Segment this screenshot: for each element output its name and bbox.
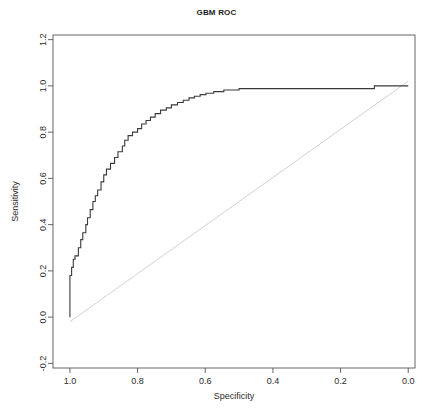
x-axis-title: Specificity xyxy=(214,391,255,401)
x-axis-tick-label: 0.0 xyxy=(402,376,415,386)
x-axis-tick-label: 0.2 xyxy=(334,376,347,386)
y-axis-tick-label: 1.2 xyxy=(38,33,48,46)
x-axis-tick-label: 0.8 xyxy=(131,376,144,386)
y-axis-tick-label: 0.6 xyxy=(38,172,48,185)
y-axis-tick-label: 0.8 xyxy=(38,126,48,139)
y-axis-tick-label: 0.0 xyxy=(38,311,48,324)
y-axis-tick-label: 0.4 xyxy=(38,218,48,231)
y-axis-title: Sensitivity xyxy=(10,181,20,222)
reference-diagonal-line xyxy=(70,81,408,322)
x-axis-tick-label: 1.0 xyxy=(64,376,77,386)
roc-chart-window: GBM ROC 1.00.80.60.40.20.0-0.20.00.20.40… xyxy=(0,0,433,417)
y-axis-tick-label: 1.0 xyxy=(38,80,48,93)
roc-plot: 1.00.80.60.40.20.0-0.20.00.20.40.60.81.0… xyxy=(0,0,433,417)
plot-frame xyxy=(53,35,415,368)
x-axis-tick-label: 0.6 xyxy=(199,376,212,386)
y-axis-tick-label: 0.2 xyxy=(38,265,48,278)
x-axis-tick-label: 0.4 xyxy=(267,376,280,386)
y-axis-tick-label: -0.2 xyxy=(38,356,48,372)
